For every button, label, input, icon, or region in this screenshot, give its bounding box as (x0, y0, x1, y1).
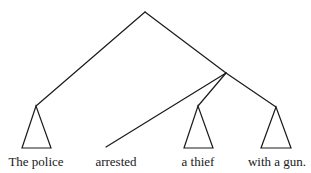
branch-root-to-subject (36, 12, 145, 106)
leaf-label-subject: The police (8, 154, 63, 169)
pp-triangle (261, 107, 291, 148)
tree-triangles (22, 106, 291, 148)
object-triangle (184, 106, 213, 148)
branch-vp-to-object (198, 73, 226, 106)
branch-root-to-vp (145, 12, 226, 73)
tree-branches (36, 12, 276, 147)
branch-vp-to-pp (226, 73, 276, 107)
branch-vp-to-verb (106, 73, 226, 147)
leaf-label-object: a thief (182, 154, 216, 169)
syntax-tree-diagram: The police arrested a thief with a gun. (0, 0, 311, 173)
leaf-label-verb: arrested (95, 154, 137, 169)
subject-triangle (22, 106, 51, 148)
leaf-labels: The police arrested a thief with a gun. (8, 154, 306, 169)
leaf-label-pp: with a gun. (248, 154, 306, 169)
